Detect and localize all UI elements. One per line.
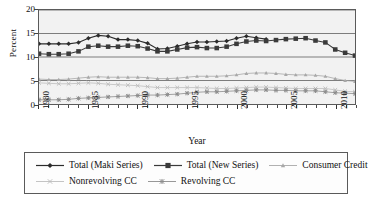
data-point-asterisk <box>353 92 355 96</box>
x-tick-mark <box>177 105 178 108</box>
data-point-square <box>56 52 61 57</box>
data-point-asterisk <box>175 92 179 96</box>
data-point-diamond <box>56 42 61 47</box>
data-point-diamond <box>47 162 52 167</box>
data-point-asterisk <box>185 91 189 95</box>
data-point-square <box>353 53 355 58</box>
data-point-asterisk <box>205 90 209 94</box>
legend-entry[interactable]: Consumer Credit <box>268 157 367 173</box>
x-tick-mark <box>227 105 228 108</box>
data-point-square <box>135 44 140 49</box>
x-tick-mark <box>207 105 208 108</box>
chart-plot-area: Percent 05101520 19801985199019952000200… <box>0 0 366 148</box>
series-svg <box>39 10 355 104</box>
data-point-asterisk <box>155 93 159 97</box>
data-point-asterisk <box>57 98 61 102</box>
data-point-diamond <box>145 41 150 46</box>
data-point-asterisk <box>126 94 130 98</box>
data-point-asterisk <box>323 90 327 94</box>
data-point-square <box>165 49 170 54</box>
data-point-asterisk <box>66 97 70 101</box>
legend-label: Revolving CC <box>181 176 236 187</box>
legend-entry[interactable]: Nonrevolving CC <box>35 173 137 189</box>
y-axis-tick-labels: 05101520 <box>14 4 35 110</box>
x-tick-label: 2000 <box>240 91 249 109</box>
data-point-diamond <box>39 42 41 47</box>
data-point-square <box>333 47 338 52</box>
data-point-square <box>106 44 111 49</box>
data-point-square <box>293 36 298 41</box>
data-point-diamond <box>224 39 229 44</box>
legend-entry[interactable]: Total (New Series) <box>153 157 259 173</box>
data-point-square <box>96 43 101 48</box>
legend-marker-square-icon <box>153 160 183 171</box>
x-tick-mark <box>78 105 79 108</box>
data-point-diamond <box>86 36 91 41</box>
data-point-diamond <box>106 34 111 39</box>
data-point-diamond <box>76 40 81 45</box>
legend-label: Total (Maki Series) <box>69 160 143 171</box>
data-point-square <box>224 44 229 49</box>
data-point-square <box>145 46 150 51</box>
data-point-diamond <box>234 36 239 41</box>
data-point-diamond <box>116 37 121 42</box>
x-tick-mark <box>267 105 268 108</box>
data-point-asterisk <box>165 92 169 96</box>
data-point-diamond <box>214 39 219 44</box>
data-point-square <box>205 46 210 51</box>
data-point-square <box>284 37 289 42</box>
data-point-square <box>195 45 200 50</box>
chart-legend: Total (Maki Series)Total (New Series)Con… <box>24 152 348 194</box>
legend-marker-diamond-icon <box>35 160 65 171</box>
data-point-asterisk <box>116 94 120 98</box>
x-tick-mark <box>306 105 307 108</box>
x-tick-mark <box>326 105 327 108</box>
data-point-diamond <box>47 42 52 47</box>
legend-marker-triangle-icon <box>268 160 298 171</box>
legend-marker-x-icon <box>35 176 65 187</box>
data-point-asterisk <box>333 91 337 95</box>
data-point-asterisk <box>303 89 307 93</box>
data-point-square <box>47 52 52 57</box>
data-point-square <box>244 39 249 44</box>
x-tick-label: 2005 <box>290 91 299 109</box>
data-point-square <box>303 36 308 41</box>
x-tick-label: 1995 <box>191 91 200 109</box>
x-tick-label: 1985 <box>91 91 100 109</box>
data-point-asterisk <box>284 88 288 92</box>
legend-row: Total (Maki Series)Total (New Series)Con… <box>31 157 341 173</box>
data-point-square <box>165 162 170 167</box>
data-point-asterisk <box>215 90 219 94</box>
legend-label: Nonrevolving CC <box>69 176 137 187</box>
data-point-square <box>254 38 259 43</box>
x-tick-mark <box>356 105 357 108</box>
data-point-asterisk <box>254 88 258 92</box>
x-tick-mark <box>108 105 109 108</box>
data-point-square <box>313 38 318 43</box>
data-point-diamond <box>195 40 200 45</box>
x-tick-mark <box>257 105 258 108</box>
data-point-asterisk <box>313 89 317 93</box>
data-point-square <box>323 40 328 45</box>
data-point-square <box>175 47 180 52</box>
legend-entry[interactable]: Total (Maki Series) <box>35 157 143 173</box>
x-tick-label: 1980 <box>42 91 51 109</box>
x-tick-mark <box>217 105 218 108</box>
data-point-square <box>274 38 279 43</box>
data-point-diamond <box>66 42 71 47</box>
x-tick-mark <box>127 105 128 108</box>
series-line <box>39 35 266 49</box>
x-axis-title: Year <box>38 136 356 146</box>
legend-row: Nonrevolving CCRevolving CC <box>31 173 341 189</box>
legend-entry[interactable]: Revolving CC <box>147 173 236 189</box>
data-point-square <box>214 46 219 51</box>
x-tick-label: 2010 <box>340 91 349 109</box>
data-point-square <box>234 42 239 47</box>
data-point-asterisk <box>274 88 278 92</box>
data-point-square <box>264 39 269 44</box>
data-point-square <box>126 43 131 48</box>
legend-label: Total (New Series) <box>187 160 259 171</box>
data-point-square <box>86 44 91 49</box>
data-point-square <box>39 51 41 56</box>
